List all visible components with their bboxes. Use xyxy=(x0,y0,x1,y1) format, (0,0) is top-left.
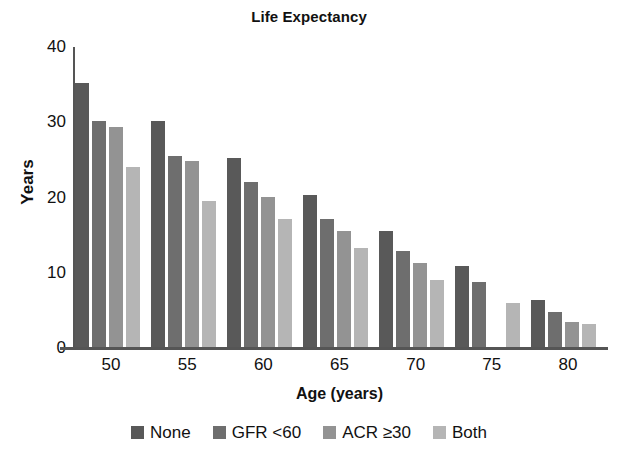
x-axis-tick-label: 50 xyxy=(81,356,141,373)
bar-group xyxy=(151,47,216,348)
legend-label: Both xyxy=(452,424,487,441)
x-axis-tick-label: 80 xyxy=(538,356,598,373)
bar xyxy=(506,303,520,348)
chart-title: Life Expectancy xyxy=(0,8,618,25)
bar xyxy=(337,231,351,348)
legend-item: None xyxy=(131,424,191,441)
bar xyxy=(531,300,545,348)
legend-swatch-icon xyxy=(433,426,446,439)
bar xyxy=(261,197,275,348)
bar xyxy=(244,182,258,348)
bar-group xyxy=(531,47,596,348)
bar xyxy=(379,231,393,348)
x-axis-tick-label: 65 xyxy=(310,356,370,373)
chart-legend: NoneGFR <60ACR ≥30Both xyxy=(0,424,618,441)
plot-area xyxy=(73,47,606,348)
x-axis-tick-label: 60 xyxy=(233,356,293,373)
legend-label: GFR <60 xyxy=(232,424,301,441)
legend-swatch-icon xyxy=(213,426,226,439)
y-axis-tick-label: 30 xyxy=(24,113,66,130)
bar xyxy=(126,167,140,348)
bar xyxy=(92,121,106,348)
bar xyxy=(75,83,89,348)
bar xyxy=(565,322,579,348)
bar xyxy=(109,127,123,348)
bar xyxy=(320,219,334,348)
bar xyxy=(430,280,444,348)
x-axis-tick-label: 70 xyxy=(386,356,446,373)
bar-group xyxy=(379,47,444,348)
bar xyxy=(582,324,596,348)
life-expectancy-bar-chart: Life Expectancy Years 010203040 50556065… xyxy=(0,0,618,456)
y-axis-tick-labels: 010203040 xyxy=(14,0,66,456)
bar xyxy=(472,282,486,348)
bar-group xyxy=(227,47,292,348)
bar xyxy=(185,161,199,348)
bar xyxy=(548,312,562,348)
bar xyxy=(396,251,410,348)
legend-label: ACR ≥30 xyxy=(342,424,411,441)
legend-swatch-icon xyxy=(323,426,336,439)
bar xyxy=(455,266,469,348)
bar xyxy=(151,121,165,348)
bar-group xyxy=(75,47,140,348)
x-axis-line xyxy=(60,347,608,350)
bar xyxy=(168,156,182,348)
x-axis-tick-label: 75 xyxy=(462,356,522,373)
legend-label: None xyxy=(150,424,191,441)
bar xyxy=(413,263,427,348)
bar-group xyxy=(455,47,520,348)
x-axis-title: Age (years) xyxy=(73,385,606,403)
x-axis-tick-labels: 50556065707580 xyxy=(73,356,606,380)
y-axis-tick-label: 40 xyxy=(24,38,66,55)
legend-swatch-icon xyxy=(131,426,144,439)
y-axis-tick-label: 10 xyxy=(24,264,66,281)
x-axis-tick-label: 55 xyxy=(157,356,217,373)
bar-group xyxy=(303,47,368,348)
bar xyxy=(278,219,292,348)
legend-item: ACR ≥30 xyxy=(323,424,411,441)
y-axis-tick-label: 20 xyxy=(24,189,66,206)
legend-item: Both xyxy=(433,424,487,441)
legend-item: GFR <60 xyxy=(213,424,301,441)
bar xyxy=(354,248,368,348)
bar xyxy=(227,158,241,348)
bar xyxy=(202,201,216,348)
bar xyxy=(303,195,317,348)
